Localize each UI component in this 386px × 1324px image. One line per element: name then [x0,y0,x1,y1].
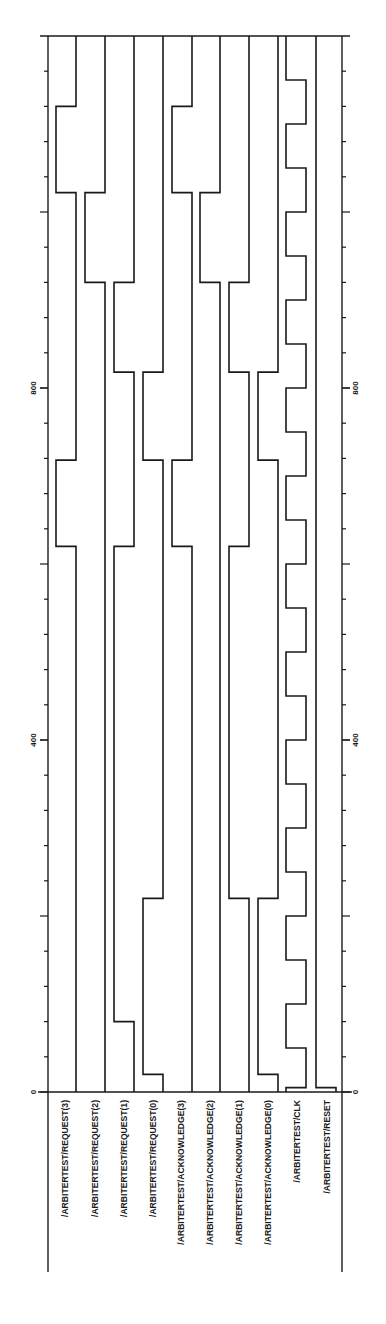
time-tick-label: 0 [351,1089,360,1094]
waveform-arbitertest-acknowledge-0 [258,36,278,1092]
signal-waveforms [56,36,336,1092]
signal-label: /ARBITERTEST/CLK [292,1099,302,1182]
waveform-arbitertest-acknowledge-2 [200,36,220,1092]
time-tick-label: 800 [29,381,38,395]
timing-diagram: 00400400800800 /ARBITERTEST/REQUEST(3)/A… [0,0,386,1324]
signal-label: /ARBITERTEST/REQUEST(3) [60,1100,70,1217]
signal-label: /ARBITERTEST/RESET [322,1099,332,1193]
time-axis-ticks: 00400400800800 [29,71,360,1094]
time-tick-label: 400 [29,733,38,747]
waveform-arbitertest-request-0 [143,36,163,1092]
waveform-arbitertest-clk [286,36,306,1092]
signal-label: /ARBITERTEST/REQUEST(0) [148,1100,158,1217]
signal-label: /ARBITERTEST/ACKNOWLEDGE(0) [263,1100,273,1245]
time-tick-label: 400 [351,733,360,747]
waveform-arbitertest-acknowledge-3 [172,36,192,1092]
signal-label: /ARBITERTEST/ACKNOWLEDGE(2) [205,1100,215,1245]
signal-label: /ARBITERTEST/ACKNOWLEDGE(3) [176,1100,186,1245]
signal-label: /ARBITERTEST/ACKNOWLEDGE(1) [234,1100,244,1245]
waveform-arbitertest-request-2 [85,36,105,1092]
signal-label: /ARBITERTEST/REQUEST(2) [90,1100,100,1217]
waveform-arbitertest-acknowledge-1 [229,36,249,1092]
waveform-arbitertest-reset [316,36,336,1092]
signal-labels: /ARBITERTEST/REQUEST(3)/ARBITERTEST/REQU… [60,1099,332,1244]
waveform-arbitertest-request-3 [56,36,76,1092]
time-tick-label: 0 [29,1089,38,1094]
time-tick-label: 800 [351,381,360,395]
waveform-arbitertest-request-1 [114,36,134,1092]
signal-label: /ARBITERTEST/REQUEST(1) [119,1100,129,1217]
